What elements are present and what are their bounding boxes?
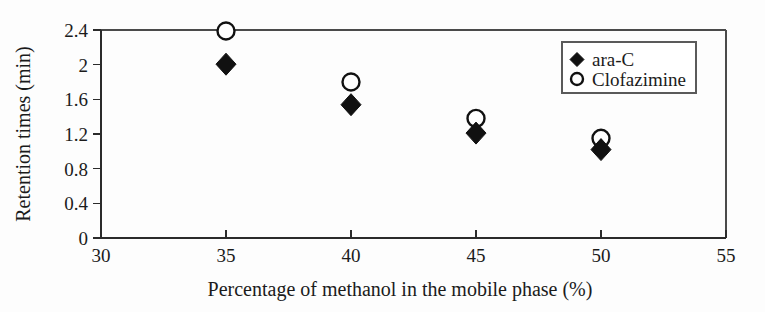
data-point-ara-c-45 (466, 122, 486, 144)
legend-marker-open-circle-icon (571, 73, 583, 85)
y-axis-title: Retention times (min) (12, 46, 35, 222)
y-tick-label-0.8: 0.8 (64, 159, 88, 180)
legend-label-clofazimine: Clofazimine (592, 69, 686, 90)
x-tick-label-45: 45 (467, 245, 486, 266)
y-tick-label-1.2: 1.2 (64, 124, 88, 145)
y-tick-label-1.6: 1.6 (64, 89, 88, 110)
data-point-ara-c-35 (216, 53, 236, 75)
x-tick-label-40: 40 (342, 245, 361, 266)
data-point-clofazimine-40 (343, 74, 360, 91)
y-tick-label-0: 0 (79, 228, 89, 249)
legend-label-ara-c: ara-C (592, 49, 634, 70)
data-point-clofazimine-35 (218, 23, 235, 40)
x-tick-label-50: 50 (592, 245, 611, 266)
x-tick-label-55: 55 (717, 245, 736, 266)
x-axis-title: Percentage of methanol in the mobile pha… (208, 278, 593, 301)
y-axis-ticks: 2.4 2 1.6 1.2 0.8 0.4 0 (64, 20, 101, 249)
data-point-ara-c-40 (341, 94, 361, 116)
chart-legend: ara-C Clofazimine (562, 42, 696, 93)
x-tick-label-30: 30 (92, 245, 111, 266)
series-ara-c-markers (216, 53, 611, 160)
chart-figure: 2.4 2 1.6 1.2 0.8 0.4 0 30 35 40 45 50 5… (0, 0, 765, 312)
x-axis-ticks: 30 35 40 45 50 55 (92, 230, 736, 266)
y-tick-label-2: 2 (79, 55, 89, 76)
series-clofazimine-markers (218, 23, 610, 147)
retention-times-scatter-chart: 2.4 2 1.6 1.2 0.8 0.4 0 30 35 40 45 50 5… (0, 0, 765, 312)
y-tick-label-0.4: 0.4 (64, 193, 88, 214)
x-tick-label-35: 35 (217, 245, 236, 266)
y-tick-label-2.4: 2.4 (64, 20, 88, 41)
